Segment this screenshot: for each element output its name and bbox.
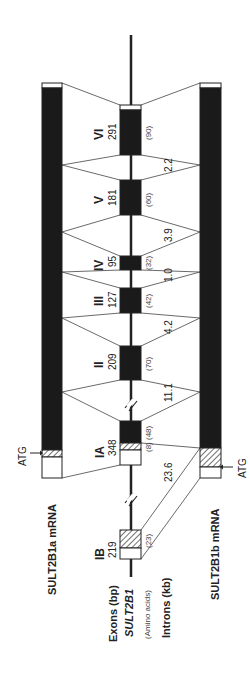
legend-amino-acids: (Amino acids) <box>143 590 152 639</box>
exon-II-bp: 209 <box>107 353 118 370</box>
exon-IA-id: IA <box>93 446 107 458</box>
exon-VI-id: VI <box>92 129 106 140</box>
exon-IV-id: IV <box>92 260 106 271</box>
exon-VI-bp: 291 <box>107 123 118 140</box>
exon-III-aa: (42) <box>144 293 153 308</box>
exon-IB-aa: (23) <box>144 533 153 548</box>
atg-label-a: ATG <box>17 446 28 466</box>
row-legend: Exons (bp) SULT2B1 (Amino acids) Introns… <box>107 577 172 642</box>
exon-IV-aa: (32) <box>144 255 153 270</box>
exon-III: III 127 (42) <box>92 288 153 313</box>
mrna-sult2b1a <box>42 83 62 478</box>
exon-VI-aa: (90) <box>144 125 153 140</box>
intron-II-III: 4.2 <box>163 320 174 334</box>
exon-IA: IA 348 (48) (8) <box>93 421 153 465</box>
intron-IV-V: 3.9 <box>163 228 174 242</box>
intron-labels: 23.6 11.1 4.2 1.0 3.9 2.2 <box>163 158 174 482</box>
atg-marker-a: ATG <box>17 446 43 466</box>
exon-IB-id: IB <box>93 548 107 560</box>
exon-V-bp: 181 <box>107 189 118 206</box>
exon-IV: IV 95 (32) <box>92 255 153 271</box>
legend-exons: Exons (bp) <box>107 585 119 642</box>
exon-V-aa: (60) <box>144 192 153 207</box>
exon-V: V 181 (60) <box>92 180 153 215</box>
intron-IA-II: 11.1 <box>163 383 174 402</box>
exon-IA-bp: 348 <box>107 439 118 456</box>
legend-gene: SULT2B1 <box>123 589 135 637</box>
mrna-label-b: SULT2B1b mRNA <box>209 508 221 600</box>
intron-III-IV: 1.0 <box>163 268 174 282</box>
intron-IB-IA: 23.6 <box>163 462 174 482</box>
gene-structure-diagram: ATG SULT2B1a mRNA ATG SULT2B1b mRNA VI 2… <box>0 0 250 673</box>
exon-V-id: V <box>92 196 106 204</box>
exon-II-id: II <box>92 361 106 368</box>
exon-II-aa: (70) <box>144 356 153 371</box>
atg-marker-b: ATG <box>220 458 248 478</box>
intron-V-VI: 2.2 <box>163 158 174 172</box>
exon-III-bp: 127 <box>107 291 118 308</box>
exon-IV-bp: 95 <box>107 255 118 267</box>
exon-IB-bp: 219 <box>107 541 118 558</box>
mrna-sult2b1b <box>200 83 221 478</box>
atg-label-b: ATG <box>237 458 248 478</box>
exon-II: II 209 (70) <box>92 346 153 380</box>
exon-IA-aa-extra: (8) <box>144 442 153 452</box>
mrna-label-a: SULT2B1a mRNA <box>46 504 58 595</box>
legend-introns: Introns (kb) <box>160 577 172 638</box>
exon-III-id: III <box>92 296 106 306</box>
exon-VI: VI 291 (90) <box>92 105 153 155</box>
exon-IA-aa: (48) <box>144 425 153 440</box>
